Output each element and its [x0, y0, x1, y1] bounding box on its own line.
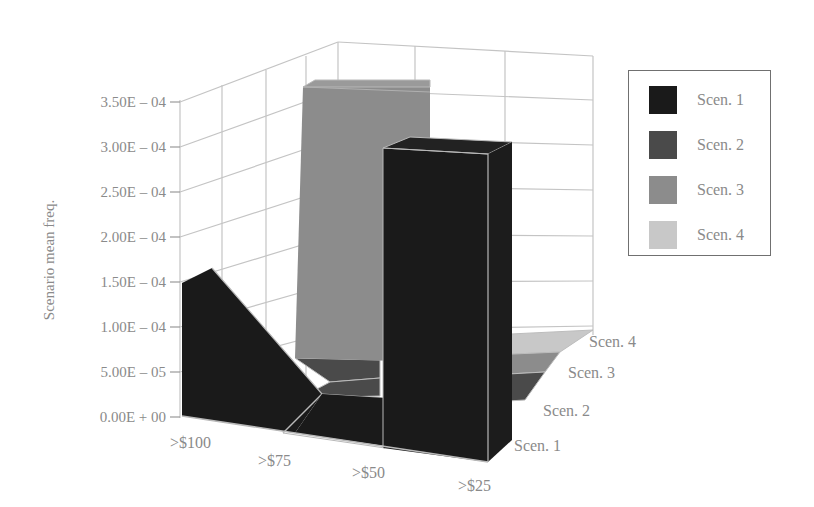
legend-label: Scen. 4: [697, 226, 744, 244]
legend-item-scen-3: Scen. 3: [649, 175, 744, 205]
z-category-label: Scen. 4: [589, 333, 636, 350]
legend-label: Scen. 3: [697, 181, 744, 199]
x-category-label: >$75: [258, 452, 291, 469]
y-axis-labels: 3.50E – 04 3.00E – 04 2.50E – 04 2.00E –…: [100, 94, 167, 425]
y-tick-label: 5.00E – 05: [101, 364, 166, 380]
legend-item-scen-1: Scen. 1: [649, 85, 744, 115]
y-tick-label: 2.00E – 04: [101, 229, 167, 245]
x-category-label: >$100: [170, 434, 211, 451]
legend-swatch: [649, 176, 677, 204]
y-tick-label: 1.50E – 04: [101, 274, 167, 290]
y-tick-label: 3.00E – 04: [101, 139, 167, 155]
y-tick-label: 1.00E – 04: [101, 319, 167, 335]
z-category-label: Scen. 2: [543, 402, 590, 419]
y-tick-label: 2.50E – 04: [101, 184, 167, 200]
y-tick-marks: [170, 102, 180, 417]
legend-swatch: [649, 131, 677, 159]
legend-item-scen-4: Scen. 4: [649, 220, 744, 250]
legend-label: Scen. 2: [697, 136, 744, 154]
legend-label: Scen. 1: [697, 91, 744, 109]
z-category-label: Scen. 3: [568, 364, 615, 381]
y-axis-title: Scenario mean freq.: [41, 200, 57, 320]
y-tick-label: 3.50E – 04: [101, 94, 167, 110]
y-tick-label: 0.00E + 00: [100, 409, 166, 425]
x-category-label: >$25: [458, 477, 491, 494]
legend-item-scen-2: Scen. 2: [649, 130, 744, 160]
legend-swatch: [649, 86, 677, 114]
z-category-label: Scen. 1: [514, 437, 561, 454]
legend: Scen. 1 Scen. 2 Scen. 3 Scen. 4: [628, 70, 771, 256]
x-category-label: >$50: [352, 464, 385, 481]
legend-swatch: [649, 221, 677, 249]
